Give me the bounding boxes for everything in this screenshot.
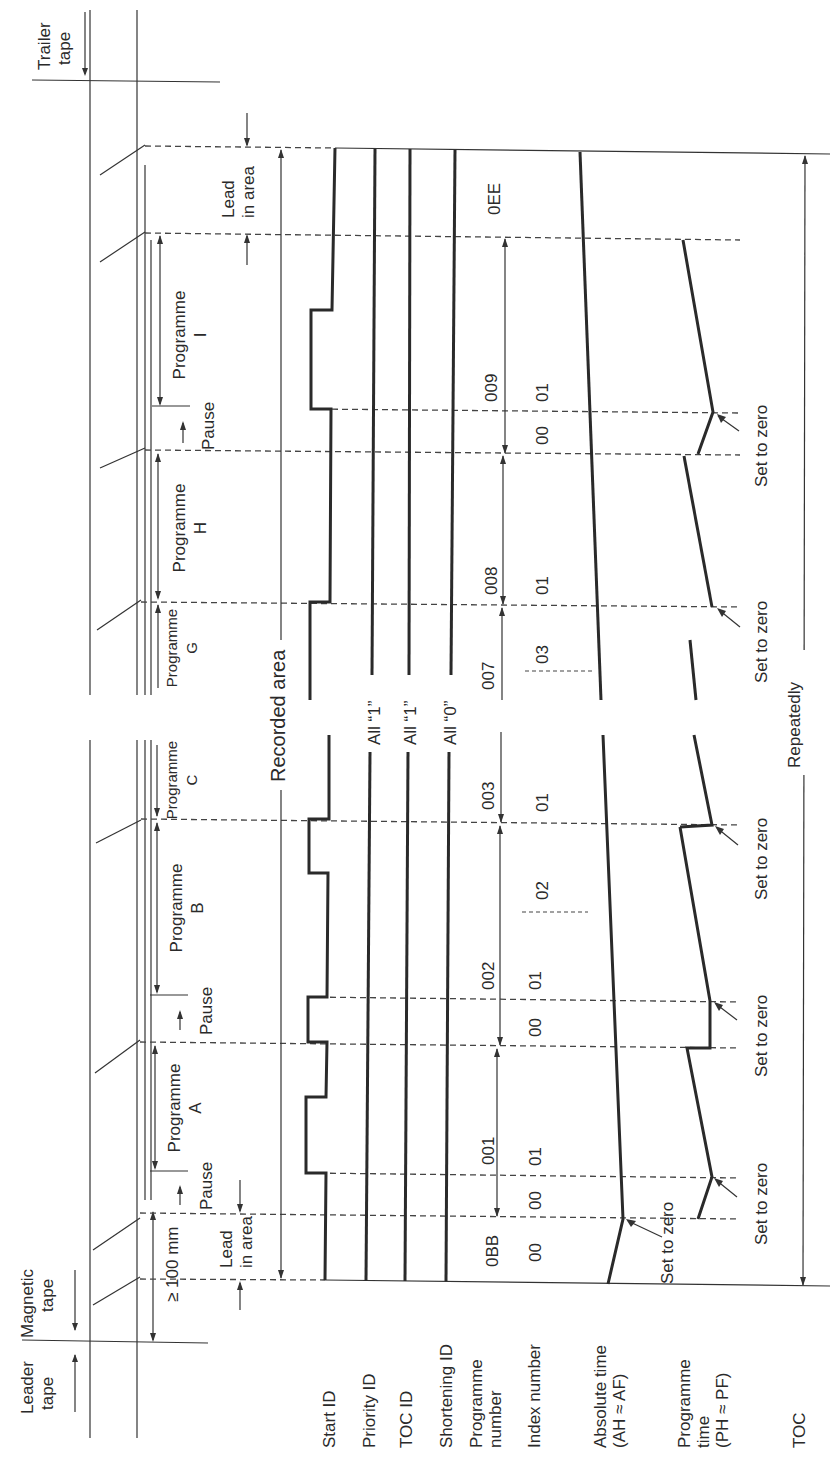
- programme-a-label: Programme: [165, 1064, 184, 1153]
- row-label-index-number: Index number: [525, 1344, 544, 1448]
- programme-number-007: 007: [479, 662, 498, 690]
- svg-text:tape: tape: [55, 32, 74, 65]
- row-labels: Start ID Priority ID TOC ID Shortening I…: [320, 1344, 809, 1448]
- set-to-zero-c: Set to zero: [752, 818, 771, 900]
- svg-text:C: C: [183, 774, 200, 785]
- programme-number-001: 001: [479, 1137, 498, 1165]
- leader-tape-label: Leader: [18, 1361, 37, 1414]
- svg-text:All “1”: All “1”: [365, 700, 384, 745]
- svg-text:All “0”: All “0”: [441, 700, 460, 745]
- svg-text:number: number: [486, 1390, 505, 1448]
- svg-text:Programme: Programme: [167, 864, 186, 953]
- shortening-all-zeros-label: All “0”: [441, 700, 460, 745]
- svg-text:(PH ≈ PF): (PH ≈ PF): [713, 1373, 732, 1448]
- boundary-lines: [140, 146, 830, 1286]
- lead-in-bottom-label: Lead: [217, 1230, 236, 1268]
- set-to-zero-i: Set to zero: [752, 405, 771, 487]
- programme-number-002: 002: [479, 962, 498, 990]
- svg-text:time: time: [694, 1416, 713, 1448]
- trailer-tape-label: Trailer: [35, 22, 54, 70]
- set-to-zero-h: Set to zero: [752, 601, 771, 683]
- programme-time-signal: [680, 240, 713, 1219]
- svg-text:G: G: [183, 642, 200, 654]
- pause-label-i: Pause: [199, 402, 218, 450]
- row-label-shortening-id: Shortening ID: [437, 1344, 456, 1448]
- lead-in-top-label: Lead: [219, 180, 238, 218]
- programme-number-009: 009: [482, 374, 501, 402]
- svg-text:00: 00: [533, 426, 552, 445]
- dat-subcode-diagram: Trailer tape Magnetic tape Leader tape ≥…: [0, 0, 834, 1465]
- svg-text:Programme: Programme: [163, 741, 180, 819]
- lead-in-areas: Lead in area Lead in area: [217, 113, 258, 1310]
- svg-text:Trailer: Trailer: [35, 22, 54, 70]
- svg-text:Lead: Lead: [217, 1230, 236, 1268]
- set-to-zero-a: Set to zero: [752, 1163, 771, 1245]
- pause-label-a: Pause: [197, 1162, 216, 1210]
- svg-text:A: A: [186, 1102, 205, 1114]
- svg-text:00: 00: [526, 1191, 545, 1210]
- svg-text:B: B: [188, 902, 207, 913]
- svg-text:in area: in area: [239, 165, 258, 218]
- toc-repeat-dimension: Repeatedly: [782, 155, 822, 1286]
- svg-text:Lead: Lead: [219, 180, 238, 218]
- svg-text:in area: in area: [237, 1215, 256, 1268]
- svg-text:Programme: Programme: [165, 1064, 184, 1153]
- svg-text:H: H: [191, 522, 210, 534]
- programme-g-label: Programme: [163, 609, 180, 687]
- min-length-label: ≥ 100 mm: [163, 1227, 182, 1302]
- toc-all-ones-label: All “1”: [401, 700, 420, 745]
- programme-number-003: 003: [479, 782, 498, 810]
- row-label-programme-time: Programme: [675, 1359, 694, 1448]
- min-length-dimension: ≥ 100 mm: [150, 1211, 182, 1342]
- svg-text:01: 01: [533, 576, 552, 595]
- svg-text:00: 00: [526, 1018, 545, 1037]
- svg-text:01: 01: [533, 383, 552, 402]
- set-to-zero-absolute: Set to zero: [658, 1202, 677, 1284]
- tape-labels: Trailer tape Magnetic tape Leader tape: [18, 12, 88, 1414]
- magnetic-tape-label: Magnetic: [18, 1269, 37, 1338]
- svg-text:tape: tape: [38, 1377, 57, 1410]
- pause-label-b: Pause: [197, 987, 216, 1035]
- id-lines: All “1” All “1” All “0”: [365, 149, 460, 1281]
- svg-text:Programme: Programme: [163, 609, 180, 687]
- svg-text:02: 02: [533, 881, 552, 900]
- row-label-toc-id: TOC ID: [397, 1391, 416, 1448]
- recorded-area-label: Recorded area: [267, 649, 289, 782]
- row-label-programme-number: Programme: [467, 1359, 486, 1448]
- programme-c-label: Programme: [163, 741, 180, 819]
- programme-b-label: Programme: [167, 864, 186, 953]
- svg-text:I: I: [191, 333, 210, 338]
- programme-number-0bb: 0BB: [483, 1235, 502, 1267]
- start-id-signal: [306, 148, 335, 1280]
- programme-number-0ee: 0EE: [485, 183, 504, 215]
- svg-text:Magnetic: Magnetic: [18, 1269, 37, 1338]
- svg-text:tape: tape: [38, 1279, 57, 1312]
- absolute-time-signal: [580, 152, 623, 1284]
- svg-text:All “1”: All “1”: [401, 700, 420, 745]
- priority-all-ones-label: All “1”: [365, 700, 384, 745]
- row-label-toc: TOC: [790, 1412, 809, 1448]
- tape-edges: [22, 10, 220, 1438]
- svg-text:01: 01: [526, 971, 545, 990]
- programme-h-label: Programme: [170, 484, 189, 573]
- row-label-absolute-time: Absolute time: [591, 1345, 610, 1448]
- svg-text:(AH ≈ AF): (AH ≈ AF): [610, 1374, 629, 1449]
- programme-number-row: 0BB 001 002 003 007 008 009 0EE: [479, 183, 508, 1267]
- row-label-priority-id: Priority ID: [360, 1373, 379, 1448]
- svg-text:Leader: Leader: [18, 1361, 37, 1414]
- set-to-zero-b: Set to zero: [752, 995, 771, 1077]
- index-lead-in: 00: [526, 1243, 545, 1262]
- svg-text:Programme: Programme: [170, 291, 189, 380]
- svg-text:01: 01: [526, 1147, 545, 1166]
- recorded-area-dimension: Recorded area: [262, 149, 298, 1279]
- repeatedly-label: Repeatedly: [785, 681, 804, 768]
- svg-text:Programme: Programme: [170, 484, 189, 573]
- programme-i-label: Programme: [170, 291, 189, 380]
- svg-text:01: 01: [533, 793, 552, 812]
- svg-text:03: 03: [533, 645, 552, 664]
- row-label-start-id: Start ID: [320, 1390, 339, 1448]
- programme-ranges: Programme I Pause Programme H Programme …: [150, 235, 218, 1210]
- programme-number-008: 008: [482, 567, 501, 595]
